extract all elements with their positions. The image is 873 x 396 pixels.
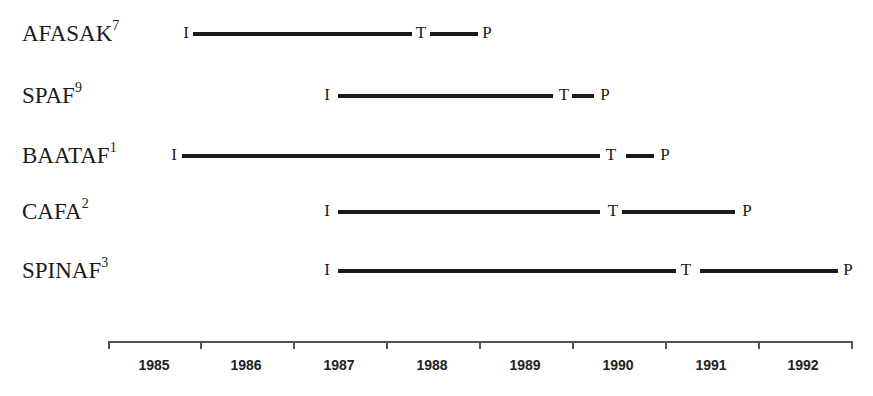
inclusion-marker: I — [324, 261, 330, 278]
inclusion-period-bar — [338, 94, 553, 98]
axis-tick — [851, 341, 853, 349]
axis-tick — [200, 341, 202, 349]
trial-label-afasak: AFASAK7 — [22, 22, 119, 45]
publication-marker: P — [843, 261, 852, 278]
inclusion-marker: I — [324, 86, 330, 103]
axis-tick — [108, 341, 110, 349]
termination-marker: T — [559, 86, 569, 103]
inclusion-period-bar — [338, 210, 600, 214]
termination-marker: T — [606, 146, 616, 163]
inclusion-period-bar — [182, 154, 600, 158]
trial-name: CAFA — [22, 199, 82, 224]
trial-name: AFASAK — [22, 21, 112, 46]
trial-label-baataf: BAATAF1 — [22, 144, 117, 167]
year-label-1985: 1985 — [138, 357, 169, 373]
axis-tick — [665, 341, 667, 349]
publication-marker: P — [742, 202, 751, 219]
reference-superscript: 2 — [82, 196, 89, 211]
year-label-1987: 1987 — [323, 357, 354, 373]
inclusion-period-bar — [193, 32, 412, 36]
publication-delay-bar — [572, 94, 594, 98]
publication-delay-bar — [700, 269, 838, 273]
year-label-1986: 1986 — [230, 357, 261, 373]
axis-tick — [386, 341, 388, 349]
reference-superscript: 9 — [75, 80, 82, 95]
axis-tick — [572, 341, 574, 349]
trial-label-spaf: SPAF9 — [22, 84, 82, 107]
inclusion-period-bar — [338, 269, 676, 273]
trial-name: SPINAF — [22, 258, 101, 283]
publication-marker: P — [482, 24, 491, 41]
reference-superscript: 1 — [110, 140, 117, 155]
reference-superscript: 7 — [112, 18, 119, 33]
axis-tick — [293, 341, 295, 349]
year-label-1988: 1988 — [416, 357, 447, 373]
termination-marker: T — [681, 261, 691, 278]
publication-marker: P — [660, 146, 669, 163]
year-label-1992: 1992 — [787, 357, 818, 373]
publication-delay-bar — [626, 154, 654, 158]
termination-marker: T — [416, 24, 426, 41]
axis-tick — [479, 341, 481, 349]
trial-name: BAATAF — [22, 143, 110, 168]
inclusion-marker: I — [171, 146, 177, 163]
termination-marker: T — [608, 202, 618, 219]
inclusion-marker: I — [324, 202, 330, 219]
publication-delay-bar — [430, 32, 478, 36]
year-label-1989: 1989 — [509, 357, 540, 373]
inclusion-marker: I — [183, 24, 189, 41]
trial-label-spinaf: SPINAF3 — [22, 259, 108, 282]
publication-delay-bar — [622, 210, 735, 214]
trial-label-cafa: CAFA2 — [22, 200, 89, 223]
reference-superscript: 3 — [101, 255, 108, 270]
year-label-1990: 1990 — [602, 357, 633, 373]
publication-marker: P — [600, 86, 609, 103]
axis-tick — [758, 341, 760, 349]
trial-name: SPAF — [22, 83, 75, 108]
year-label-1991: 1991 — [695, 357, 726, 373]
